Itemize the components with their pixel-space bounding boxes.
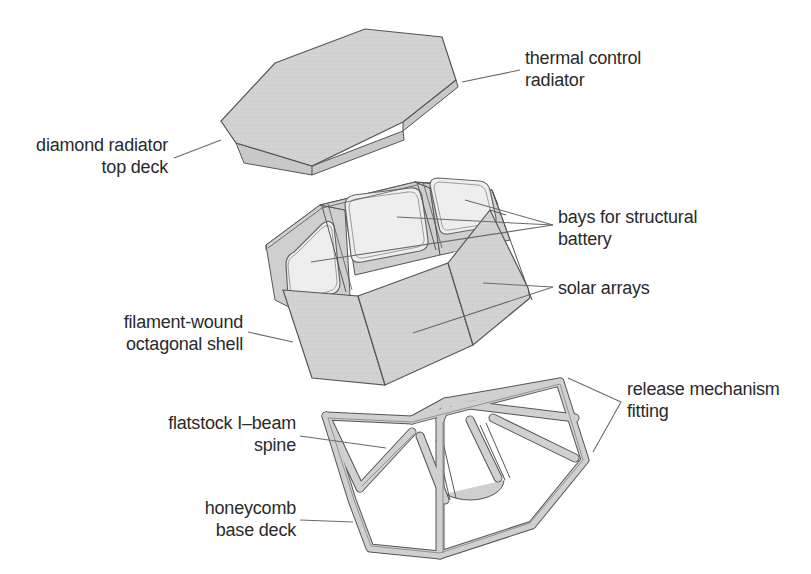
label-release-mechanism-fitting: release mechanism fitting bbox=[627, 378, 780, 422]
label-diamond-radiator-top-deck: diamond radiator top deck bbox=[36, 134, 168, 178]
leader-honeycomb bbox=[300, 520, 353, 522]
leader-release-1 bbox=[568, 378, 621, 402]
leader-release-2 bbox=[593, 402, 621, 452]
label-bays-structural-battery: bays for structural battery bbox=[558, 206, 697, 250]
octagonal-shell bbox=[266, 178, 532, 385]
top-deck bbox=[221, 29, 458, 175]
leader-diamond-radiator bbox=[174, 140, 221, 158]
label-honeycomb-base-deck: honeycomb base deck bbox=[205, 497, 296, 541]
label-flatstock-ibeam-spine: flatstock I–beam spine bbox=[168, 412, 296, 456]
satellite-exploded-diagram bbox=[0, 0, 811, 574]
base-deck-frame bbox=[326, 382, 585, 555]
label-thermal-control-radiator: thermal control radiator bbox=[525, 47, 641, 91]
leader-filament-shell bbox=[248, 332, 293, 342]
label-filament-wound-shell: filament-wound octagonal shell bbox=[124, 311, 243, 355]
label-solar-arrays: solar arrays bbox=[558, 277, 650, 299]
leader-thermal-control bbox=[462, 70, 520, 82]
